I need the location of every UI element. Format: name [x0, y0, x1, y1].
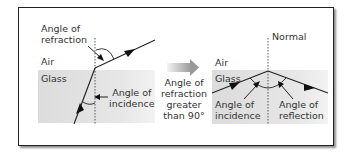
right-air-label: Air: [215, 57, 228, 68]
left-air-label: Air: [41, 56, 54, 67]
left-refracted-ray: [95, 40, 155, 68]
left-incidence-arc: [83, 102, 95, 104]
right-reflection-label: Angle of reflection: [279, 99, 324, 121]
right-incidence-label-line1: Angle of: [215, 99, 261, 110]
left-incidence-pointer: [94, 94, 108, 100]
left-incidence-label-line2: incidence: [109, 98, 155, 109]
left-incidence-label: Angle of incidence: [109, 87, 155, 109]
right-reflected-ray: [268, 71, 328, 93]
right-arrow-icon: [167, 59, 199, 76]
left-refraction-label-line2: refraction: [41, 34, 87, 45]
right-incidence-pointer: [244, 81, 260, 99]
right-reflection-pointer: [278, 81, 293, 99]
middle-caption: Angle of refraction greater than 90°: [161, 77, 207, 121]
left-refraction-label: Angle of refraction: [41, 23, 87, 45]
right-incidence-label-line2: incidence: [215, 110, 261, 121]
left-glass-label: Glass: [41, 73, 67, 84]
right-reflection-label-line2: reflection: [279, 110, 324, 121]
middle-caption-line3: greater: [161, 99, 207, 110]
middle-caption-line2: refraction: [161, 88, 207, 99]
left-incidence-label-line1: Angle of: [109, 87, 155, 98]
middle-caption-line1: Angle of: [161, 77, 207, 88]
left-incident-ray: [74, 68, 95, 124]
middle-caption-line4: than 90°: [161, 110, 207, 121]
right-glass-label: Glass: [215, 73, 241, 84]
right-incidence-label: Angle of incidence: [215, 99, 261, 121]
right-normal-label: Normal: [272, 31, 306, 42]
right-reflection-label-line1: Angle of: [279, 99, 324, 110]
left-refraction-label-line1: Angle of: [41, 23, 87, 34]
